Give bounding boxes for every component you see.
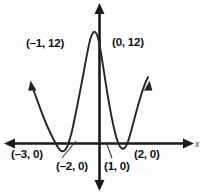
label-root-two: (2, 0) [134,149,160,161]
graph-canvas [0,0,201,194]
label-local-maximum: (–1, 12) [26,38,64,50]
quartic-curve [28,32,152,152]
label-root-minus-three: (–3, 0) [11,149,43,161]
y-axis-up-arrow-icon [95,3,105,14]
x-axis-left-arrow-icon [4,139,15,149]
curve-left-arrow-icon [28,81,36,91]
graph-figure: (–1, 12) (0, 12) (–3, 0) (–2, 0) (1, 0) … [0,0,201,194]
y-axis [95,3,105,191]
x-axis-label: x [195,139,199,149]
y-axis-down-arrow-icon [95,180,105,191]
label-root-one: (1, 0) [104,161,130,173]
curve-path [32,32,148,152]
label-root-minus-two: (–2, 0) [56,161,88,173]
x-axis-right-arrow-icon [183,139,194,149]
label-y-intercept: (0, 12) [112,37,144,49]
